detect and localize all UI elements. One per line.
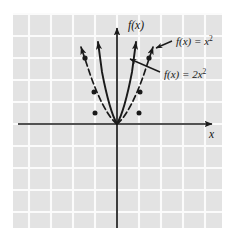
label-2x-squared-text: f(x) = 2x — [164, 68, 203, 81]
data-point — [82, 55, 87, 60]
graph-figure: f(x) x f(x) = x2 f(x) = 2x2 — [0, 0, 236, 242]
data-point — [92, 90, 97, 95]
y-axis-label: f(x) — [128, 19, 144, 32]
x-axis-label: x — [208, 128, 215, 140]
function-graph: f(x) x f(x) = x2 f(x) = 2x2 — [0, 0, 236, 242]
label-2x-squared: f(x) = 2x2 — [164, 67, 207, 81]
data-point — [138, 90, 143, 95]
label-2x-squared-exponent: 2 — [203, 67, 207, 76]
label-x-squared-exponent: 2 — [209, 34, 213, 43]
svg-text:f(x) = 2x2: f(x) = 2x2 — [164, 67, 207, 81]
data-point — [137, 111, 142, 116]
data-point — [93, 111, 98, 116]
data-point — [146, 55, 151, 60]
label-x-squared: f(x) = x2 — [176, 34, 213, 48]
label-x-squared-text: f(x) = x — [176, 35, 209, 48]
svg-text:f(x) = x2: f(x) = x2 — [176, 34, 213, 48]
